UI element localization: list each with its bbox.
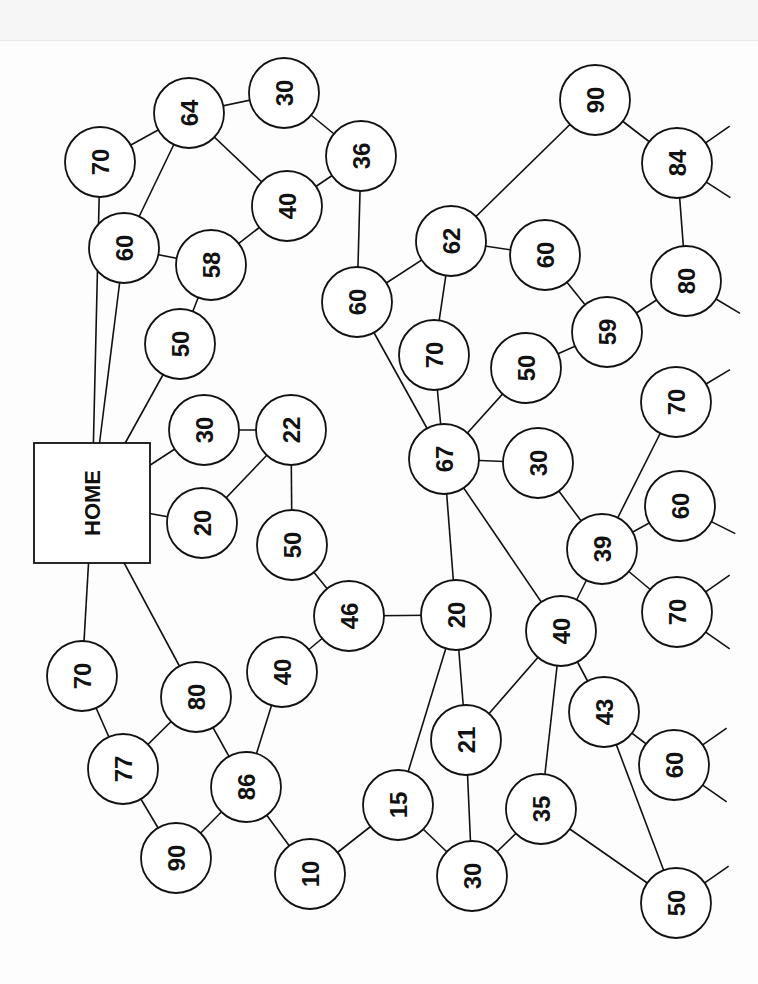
node-n30b: 30 — [169, 395, 239, 465]
node-value: 60 — [532, 242, 559, 269]
node-n30d: 30 — [437, 841, 507, 911]
node-n60c: 60 — [510, 220, 580, 290]
node-value: 50 — [279, 532, 306, 559]
node-value: 80 — [183, 684, 210, 711]
node-value: 80 — [673, 268, 700, 295]
node-value: 46 — [336, 603, 363, 630]
node-n35: 35 — [506, 774, 576, 844]
network-diagram: HOME706430364060585060302220504640708077… — [0, 0, 758, 984]
node-n62: 62 — [416, 206, 486, 276]
node-n20a: 20 — [167, 488, 237, 558]
node-n84: 84 — [642, 128, 712, 198]
node-value: 58 — [198, 252, 225, 279]
node-n50b: 50 — [257, 510, 327, 580]
node-value: 40 — [269, 659, 296, 686]
node-n64: 64 — [154, 78, 224, 148]
node-n77: 77 — [88, 734, 158, 804]
edge-stub-6 — [706, 632, 730, 649]
node-layer: HOME706430364060585060302220504640708077… — [34, 58, 721, 938]
node-n20b: 20 — [421, 580, 491, 650]
node-n50d: 50 — [641, 868, 711, 938]
edge-stub-2 — [716, 299, 740, 313]
edge-stub-7 — [703, 728, 727, 745]
node-value: 30 — [459, 863, 486, 890]
node-value: 50 — [513, 355, 540, 382]
node-n40b: 40 — [247, 637, 317, 707]
node-n90b: 90 — [560, 65, 630, 135]
node-n60a: 60 — [89, 213, 159, 283]
node-n50a: 50 — [145, 309, 215, 379]
node-value: 90 — [163, 845, 190, 872]
node-value: 22 — [278, 417, 305, 444]
node-value: 70 — [87, 149, 114, 176]
node-value: 40 — [274, 193, 301, 220]
node-n40c: 40 — [526, 596, 596, 666]
node-n21: 21 — [431, 705, 501, 775]
node-n80a: 80 — [161, 662, 231, 732]
edge-stub-8 — [703, 785, 727, 802]
node-n36: 36 — [326, 121, 396, 191]
node-n50c: 50 — [491, 333, 561, 403]
node-value: 30 — [271, 80, 298, 107]
node-n70d: 70 — [641, 367, 711, 437]
edge-stub-4 — [711, 522, 735, 534]
node-n80b: 80 — [651, 246, 721, 316]
node-n22: 22 — [256, 395, 326, 465]
home-label: HOME — [80, 470, 105, 536]
node-value: 60 — [111, 235, 138, 262]
node-n60b: 60 — [322, 267, 392, 337]
node-n43: 43 — [569, 677, 639, 747]
node-value: 21 — [453, 727, 480, 754]
node-value: 70 — [663, 389, 690, 416]
node-n30c: 30 — [503, 428, 573, 498]
edge-stub-5 — [706, 575, 730, 592]
node-value: 20 — [443, 602, 470, 629]
node-n67: 67 — [409, 424, 479, 494]
node-n59: 59 — [572, 297, 642, 367]
node-value: 86 — [233, 774, 260, 801]
node-value: 30 — [525, 450, 552, 477]
node-value: 10 — [297, 861, 324, 888]
node-value: 59 — [594, 319, 621, 346]
node-n86: 86 — [211, 752, 281, 822]
node-value: 62 — [438, 228, 465, 255]
node-n70c: 70 — [399, 320, 469, 390]
node-value: 30 — [191, 417, 218, 444]
node-n39: 39 — [567, 514, 637, 584]
node-value: 50 — [167, 331, 194, 358]
node-n90a: 90 — [141, 823, 211, 893]
node-n70a: 70 — [65, 127, 135, 197]
node-value: 40 — [548, 618, 575, 645]
node-value: 60 — [667, 493, 694, 520]
node-value: 43 — [591, 699, 618, 726]
node-value: 67 — [431, 446, 458, 473]
node-value: 60 — [344, 289, 371, 316]
node-n60e: 60 — [639, 730, 709, 800]
node-value: 50 — [663, 890, 690, 917]
node-value: 36 — [348, 143, 375, 170]
node-n70b: 70 — [47, 641, 117, 711]
node-n40a: 40 — [252, 171, 322, 241]
node-n10: 10 — [275, 839, 345, 909]
node-n70e: 70 — [642, 577, 712, 647]
node-value: 64 — [176, 99, 203, 126]
node-value: 77 — [110, 756, 137, 783]
node-value: 70 — [421, 342, 448, 369]
node-value: 35 — [528, 796, 555, 823]
edge-stub-0 — [706, 126, 730, 143]
node-value: 20 — [189, 510, 216, 537]
edge-stub-9 — [705, 866, 729, 883]
node-value: 70 — [69, 663, 96, 690]
edge-stub-3 — [706, 370, 730, 384]
node-n30a: 30 — [249, 58, 319, 128]
node-value: 84 — [664, 149, 691, 176]
node-value: 15 — [385, 792, 412, 819]
node-value: 39 — [589, 536, 616, 563]
node-n58: 58 — [176, 230, 246, 300]
node-n60d: 60 — [645, 471, 715, 541]
home-box: HOME — [34, 443, 150, 563]
node-value: 70 — [664, 599, 691, 626]
edge-stub-1 — [706, 182, 730, 198]
node-n46: 46 — [314, 581, 384, 651]
node-value: 60 — [661, 752, 688, 779]
